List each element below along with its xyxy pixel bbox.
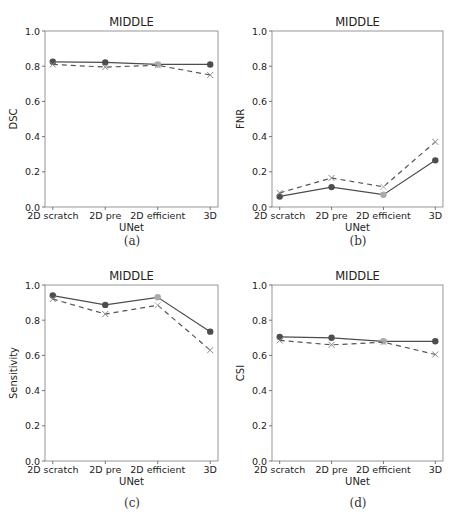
y-tick-label: 0.8 [252, 61, 267, 72]
circle-marker [432, 338, 438, 344]
y-tick-label: 0.2 [25, 166, 40, 177]
dashed-series-line [53, 299, 210, 350]
plot-frame [45, 31, 218, 207]
x-marker [432, 139, 438, 145]
x-tick-label: 2D scratch [27, 464, 78, 475]
circle-marker [207, 61, 213, 67]
circle-marker [155, 294, 161, 300]
x-axis-label: UNet [119, 476, 144, 487]
x-tick-label: 2D efficient [356, 464, 411, 475]
x-tick-label: 2D efficient [130, 464, 185, 475]
caption-a: (a) [102, 234, 162, 248]
x-tick-label: 2D scratch [254, 210, 305, 221]
x-tick-label: 3D [204, 210, 217, 221]
x-tick-label: 2D scratch [254, 464, 305, 475]
x-marker [380, 184, 386, 190]
solid-series-line [53, 62, 210, 65]
dashed-series-line [53, 64, 210, 75]
chart-title: MIDDLE [335, 15, 380, 29]
y-tick-label: 0.2 [252, 166, 267, 177]
x-tick-label: 2D scratch [27, 210, 78, 221]
y-axis-label: CSI [235, 365, 246, 381]
chart-panel-a: MIDDLE0.00.20.40.60.81.02D scratch2D pre… [0, 0, 230, 260]
y-tick-label: 0.6 [25, 350, 40, 361]
y-tick-label: 0.8 [25, 315, 40, 326]
x-tick-label: 3D [204, 464, 217, 475]
x-axis-label: UNet [119, 222, 144, 233]
y-tick-label: 1.0 [25, 280, 40, 291]
solid-series-line [280, 160, 436, 196]
chart-panel-b: MIDDLE0.00.20.40.60.81.02D scratch2D pre… [230, 0, 461, 260]
circle-marker [276, 334, 282, 340]
circle-marker [328, 184, 334, 190]
x-tick-label: 2D pre [316, 210, 348, 221]
x-tick-label: 2D efficient [130, 210, 185, 221]
chart-title: MIDDLE [109, 269, 154, 283]
plot-frame [45, 285, 218, 461]
x-tick-label: 2D pre [89, 210, 121, 221]
solid-series-line [280, 337, 436, 341]
y-tick-label: 0.6 [25, 96, 40, 107]
y-tick-label: 1.0 [25, 26, 40, 37]
x-tick-label: 3D [429, 210, 442, 221]
y-tick-label: 0.8 [252, 315, 267, 326]
x-tick-label: 3D [429, 464, 442, 475]
y-axis-label: FNR [235, 109, 246, 129]
circle-marker [102, 302, 108, 308]
y-tick-label: 0.4 [252, 131, 267, 142]
chart-svg: MIDDLE0.00.20.40.60.81.02D scratch2D pre… [0, 262, 230, 524]
y-axis-label: Sensitivity [8, 347, 19, 399]
dashed-series-line [280, 340, 436, 354]
chart-title: MIDDLE [109, 15, 154, 29]
dashed-series-line [280, 142, 436, 193]
circle-marker [50, 292, 56, 298]
chart-title: MIDDLE [335, 269, 380, 283]
circle-marker [432, 157, 438, 163]
y-axis-label: DSC [8, 108, 19, 129]
x-axis-label: UNet [345, 222, 370, 233]
circle-marker [276, 193, 282, 199]
y-tick-label: 0.4 [25, 131, 40, 142]
y-tick-label: 0.2 [25, 420, 40, 431]
y-tick-label: 0.4 [25, 385, 40, 396]
x-tick-label: 2D pre [89, 464, 121, 475]
y-tick-label: 0.6 [252, 96, 267, 107]
x-tick-label: 2D pre [316, 464, 348, 475]
plot-frame [272, 285, 443, 461]
y-tick-label: 1.0 [252, 26, 267, 37]
solid-series-line [53, 296, 210, 332]
chart-svg: MIDDLE0.00.20.40.60.81.02D scratch2D pre… [230, 262, 461, 524]
circle-marker [207, 328, 213, 334]
chart-panel-d: MIDDLE0.00.20.40.60.81.02D scratch2D pre… [230, 262, 461, 524]
caption-c: (c) [102, 496, 162, 510]
caption-b: (b) [328, 234, 388, 248]
y-tick-label: 0.6 [252, 350, 267, 361]
caption-d: (d) [328, 496, 388, 510]
y-tick-label: 1.0 [252, 280, 267, 291]
circle-marker [380, 338, 386, 344]
y-tick-label: 0.4 [252, 385, 267, 396]
x-marker [155, 302, 161, 308]
circle-marker [155, 61, 161, 67]
circle-marker [380, 191, 386, 197]
chart-svg: MIDDLE0.00.20.40.60.81.02D scratch2D pre… [230, 0, 461, 260]
y-tick-label: 0.8 [25, 61, 40, 72]
x-tick-label: 2D efficient [356, 210, 411, 221]
y-tick-label: 0.2 [252, 420, 267, 431]
chart-svg: MIDDLE0.00.20.40.60.81.02D scratch2D pre… [0, 0, 230, 260]
circle-marker [328, 335, 334, 341]
chart-panel-c: MIDDLE0.00.20.40.60.81.02D scratch2D pre… [0, 262, 230, 524]
plot-frame [272, 31, 443, 207]
x-marker [207, 347, 213, 353]
x-axis-label: UNet [345, 476, 370, 487]
